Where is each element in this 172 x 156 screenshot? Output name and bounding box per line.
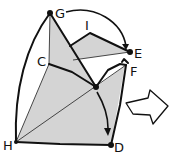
paper-shading: [16, 13, 130, 145]
point-G: [47, 10, 53, 16]
next-step-arrow-icon: [126, 90, 168, 124]
point-H: [14, 140, 18, 144]
point-center: [93, 84, 99, 90]
label-H: H: [3, 138, 13, 153]
label-C: C: [37, 54, 46, 69]
point-E: [127, 49, 133, 55]
label-E: E: [134, 46, 142, 61]
label-F: F: [130, 64, 137, 79]
label-I: I: [85, 18, 89, 33]
label-D: D: [114, 140, 124, 155]
origami-diagram: G I E F C H D: [0, 0, 172, 156]
edge-small-flap: [122, 59, 128, 63]
label-G: G: [55, 6, 65, 21]
